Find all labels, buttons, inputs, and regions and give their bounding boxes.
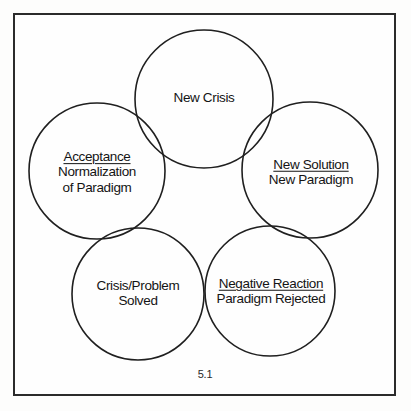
label-line: New Crisis	[173, 90, 234, 105]
venn-circles-canvas	[0, 0, 411, 411]
label-line: Crisis/Problem	[97, 278, 180, 293]
label-negative-reaction: Negative Reaction Paradigm Rejected	[217, 276, 326, 307]
figure-caption: 5.1	[198, 368, 213, 380]
label-acceptance: Acceptance Normalization of Paradigm	[58, 149, 136, 195]
label-crisis-problem-solved: Crisis/Problem Solved	[97, 278, 180, 309]
label-line: of Paradigm	[58, 180, 136, 195]
label-line: New Paradigm	[269, 172, 353, 187]
label-new-solution: New Solution New Paradigm	[269, 157, 353, 188]
label-new-crisis: New Crisis	[173, 90, 234, 105]
label-line: Negative Reaction	[217, 276, 326, 291]
figure-root: New Crisis Acceptance Normalization of P…	[0, 0, 411, 411]
label-line: Solved	[97, 293, 180, 308]
label-line: Paradigm Rejected	[217, 291, 326, 306]
label-line: Normalization	[58, 164, 136, 179]
label-line: Acceptance	[58, 149, 136, 164]
label-line: New Solution	[269, 157, 353, 172]
